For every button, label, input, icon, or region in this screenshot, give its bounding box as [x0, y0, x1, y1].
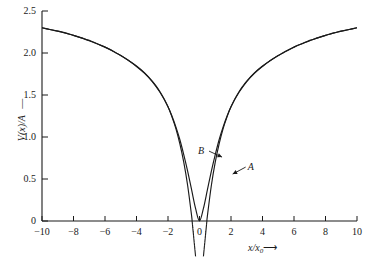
series-group	[42, 28, 357, 256]
chart-figure: −10−8−6−4−20246810 00.51.01.52.02.5 V(x)…	[0, 0, 374, 276]
y-axis-ticks	[42, 11, 48, 221]
y-axis-title-text: V(x)/A —	[17, 97, 27, 141]
right-arrow-icon: ⟶	[263, 242, 277, 253]
y-tick-label: 2.5	[8, 6, 36, 16]
x-tick-label: 6	[284, 227, 304, 237]
x-axis-title: x/x0⟶	[248, 243, 277, 255]
x-tick-label: −2	[158, 227, 178, 237]
x-axis-ticks	[42, 216, 357, 221]
x-tick-label: 0	[190, 227, 210, 237]
x-tick-label: −10	[32, 227, 52, 237]
x-tick-label: 10	[347, 227, 367, 237]
curve-a-line	[42, 28, 357, 221]
y-tick-label: 0	[8, 216, 36, 226]
x-axis-title-label: x/x	[248, 242, 260, 253]
x-tick-label: 8	[316, 227, 336, 237]
series-label-a: A	[248, 162, 254, 172]
x-tick-label: 4	[253, 227, 273, 237]
series-label-b: B	[198, 146, 204, 156]
y-tick-label: 2.0	[8, 48, 36, 58]
x-tick-label: −8	[64, 227, 84, 237]
x-tick-label: 2	[221, 227, 241, 237]
annotation-arrows	[209, 151, 246, 174]
x-tick-label: −4	[127, 227, 147, 237]
curve-b-line	[42, 28, 357, 221]
y-axis-title: V(x)/A —	[11, 89, 25, 149]
up-arrow-icon: —	[16, 97, 27, 109]
axes-group	[42, 11, 357, 221]
x-tick-label: −6	[95, 227, 115, 237]
y-tick-label: 0.5	[8, 174, 36, 184]
y-axis-title-label: V(x)/A	[16, 115, 27, 141]
